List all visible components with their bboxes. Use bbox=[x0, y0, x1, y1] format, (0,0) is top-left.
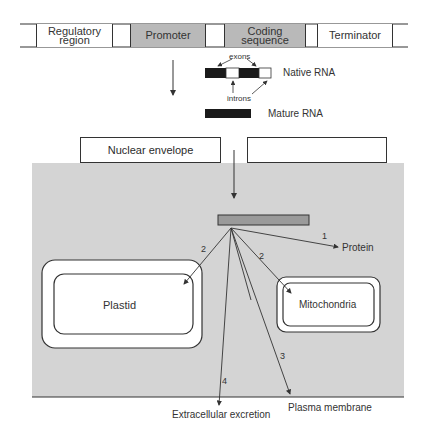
gene-regulatory-region: Regulatoryregion bbox=[36, 24, 113, 47]
route-2-mitochondria-number: 2 bbox=[259, 251, 264, 261]
intron-arrow-right bbox=[252, 81, 267, 94]
nuclear-envelope-left: Nuclear envelope bbox=[80, 137, 221, 163]
mature-rna-bar bbox=[205, 109, 251, 118]
plastid-label: Plastid bbox=[103, 300, 136, 310]
nuclear-envelope-right bbox=[247, 137, 387, 163]
route-4-number: 4 bbox=[222, 376, 227, 386]
route-2-plastid-number: 2 bbox=[201, 244, 206, 254]
route-3-number: 3 bbox=[280, 351, 285, 361]
gene-promoter: Promoter bbox=[130, 24, 206, 47]
exons-label: exons bbox=[229, 52, 250, 62]
diagram-graphics bbox=[0, 0, 428, 438]
mature-rna-label: Mature RNA bbox=[268, 109, 323, 119]
protein-targeting-diagram: Regulatoryregion Promoter Codingsequence… bbox=[0, 0, 428, 438]
gene-terminator: Terminator bbox=[317, 24, 393, 47]
native-rna-label: Native RNA bbox=[283, 68, 335, 78]
gene-coding-sequence: Codingsequence bbox=[224, 24, 306, 47]
introns-label: introns bbox=[227, 94, 251, 104]
ribosome-bar bbox=[218, 215, 309, 225]
native-rna-bar bbox=[205, 68, 271, 78]
extracellular-excretion-label: Extracellular excretion bbox=[172, 410, 270, 420]
plasma-membrane-label: Plasma membrane bbox=[288, 403, 372, 413]
mitochondria-label: Mitochondria bbox=[299, 300, 356, 310]
protein-label: Protein bbox=[342, 243, 374, 253]
route-1-number: 1 bbox=[322, 231, 327, 241]
